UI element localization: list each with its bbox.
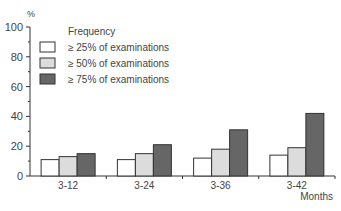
legend-swatch: [40, 58, 55, 68]
legend-swatch: [40, 74, 55, 84]
bar: [153, 145, 171, 176]
bar: [230, 130, 248, 176]
legend-label: ≥ 50% of examinations: [68, 58, 169, 69]
x-tick-label: 3-36: [211, 180, 231, 191]
bar: [41, 160, 59, 176]
y-tick-label: 0: [17, 170, 23, 182]
bar: [288, 148, 306, 176]
bar-chart: % Months 0204060801003-123-243-363-42 Fr…: [0, 0, 341, 211]
y-tick-label: 80: [11, 51, 23, 63]
y-tick-label: 40: [11, 110, 23, 122]
legend: Frequency ≥ 25% of examinations≥ 50% of …: [40, 26, 169, 85]
legend-swatch: [40, 42, 55, 52]
x-tick-label: 3-12: [58, 180, 78, 191]
bar: [270, 155, 288, 176]
x-axis-label: Months: [300, 191, 333, 202]
x-tick-label: 3-42: [287, 180, 307, 191]
y-tick-label: 60: [11, 81, 23, 93]
y-tick-label: 20: [11, 140, 23, 152]
bars: [41, 113, 324, 176]
bar: [59, 157, 77, 176]
bar: [306, 113, 324, 176]
bar: [117, 160, 135, 176]
bar: [194, 158, 212, 176]
y-axis-label: %: [27, 9, 35, 19]
bar: [212, 149, 230, 176]
x-tick-label: 3-24: [134, 180, 154, 191]
legend-title: Frequency: [68, 26, 115, 37]
legend-label: ≥ 75% of examinations: [68, 74, 169, 85]
y-tick-label: 100: [5, 21, 23, 33]
bar: [135, 154, 153, 176]
legend-label: ≥ 25% of examinations: [68, 42, 169, 53]
bar: [77, 154, 95, 176]
